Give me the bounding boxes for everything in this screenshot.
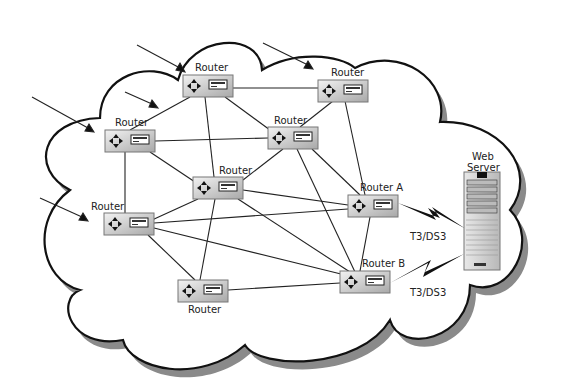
router-a — [348, 195, 398, 217]
router-label: Router — [219, 165, 253, 176]
router-b-label: Router B — [362, 258, 405, 269]
server-label-line2: Server — [467, 162, 501, 173]
router-a-label: Router A — [360, 182, 403, 193]
server-label-line1: Web — [472, 151, 494, 162]
router-label: Router — [274, 115, 308, 126]
router-r1 — [183, 75, 233, 97]
router-label: Router — [188, 304, 222, 315]
router-label: Router — [115, 117, 149, 128]
wan-link-label: T3/DS3 — [409, 287, 446, 298]
router-b — [340, 271, 390, 293]
router-r2 — [318, 80, 368, 102]
web-server — [464, 172, 500, 270]
router-r9 — [178, 280, 228, 302]
router-label: Router — [195, 62, 229, 73]
router-r5 — [193, 177, 243, 199]
network-diagram: Web Server Router Router Router Router R… — [0, 0, 567, 390]
wan-link-label: T3/DS3 — [409, 231, 446, 242]
router-label: Router — [331, 67, 365, 78]
router-label: Router — [91, 201, 125, 212]
router-r3 — [105, 130, 155, 152]
router-r6 — [104, 213, 154, 235]
router-r4 — [268, 127, 318, 149]
